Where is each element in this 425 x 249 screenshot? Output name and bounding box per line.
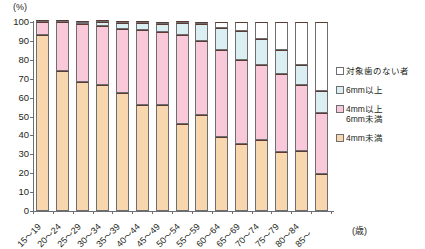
bar-segment <box>255 22 268 39</box>
bar-segment <box>255 39 268 65</box>
legend-swatch-icon <box>336 67 344 75</box>
legend-item: 対象歯のない者 <box>336 66 424 76</box>
bar-30～34 <box>96 22 109 211</box>
x-axis-tick-label: 20～24 <box>36 222 63 249</box>
x-axis-tick-label: 55～59 <box>175 222 202 249</box>
bar-segment <box>136 105 149 211</box>
bar-50～54 <box>176 22 189 211</box>
bar-segment <box>36 22 49 35</box>
bar-segment <box>96 22 109 26</box>
chart-legend: 対象歯のない者6mm以上4mm以上 6mm未満4mm未満 <box>336 66 424 152</box>
x-axis-tick-label: 65～69 <box>215 222 242 249</box>
bar-segment <box>156 22 169 24</box>
bar-segment <box>215 28 228 51</box>
bar-segment <box>195 115 208 211</box>
bar-segment <box>96 85 109 211</box>
legend-label: 4mm以上 6mm未満 <box>346 104 383 124</box>
bar-segment <box>156 105 169 211</box>
plot-area: 0102030405060708090100 <box>33 22 331 211</box>
x-axis-tick-label: 60～64 <box>195 222 222 249</box>
bar-segment <box>275 22 288 50</box>
bar-45～49 <box>156 22 169 211</box>
legend-swatch-icon <box>336 134 344 142</box>
bar-segment <box>116 29 129 93</box>
legend-swatch-icon <box>336 86 344 94</box>
bar-segment <box>315 113 328 174</box>
bar-segment <box>116 21 129 23</box>
bar-segment <box>76 24 89 83</box>
bar-segment <box>295 65 308 86</box>
x-axis-tick-label: 15～19 <box>16 222 43 249</box>
bar-segment <box>275 74 288 152</box>
bar-25～29 <box>76 22 89 211</box>
x-axis-tick-label: 25～29 <box>56 222 83 249</box>
bar-segment <box>136 30 149 106</box>
bar-60～64 <box>215 22 228 211</box>
legend-label: 対象歯のない者 <box>346 66 409 76</box>
legend-label: 4mm未満 <box>346 133 383 143</box>
bar-group <box>33 22 331 211</box>
x-axis-tick-label: 85～ <box>294 229 314 249</box>
bar-segment <box>56 71 69 211</box>
bar-segment <box>96 20 109 22</box>
bar-segment <box>215 50 228 137</box>
bar-segment <box>76 82 89 211</box>
bar-segment <box>235 31 248 59</box>
bar-segment <box>235 144 248 211</box>
bar-segment <box>36 20 49 22</box>
bar-segment <box>315 91 328 113</box>
bar-55～59 <box>195 22 208 211</box>
bar-40～44 <box>136 22 149 211</box>
bar-75～79 <box>275 22 288 211</box>
bar-segment <box>195 41 208 115</box>
bar-segment <box>295 151 308 211</box>
bar-segment <box>156 24 169 33</box>
y-axis-tick-mark <box>30 211 33 212</box>
bar-segment <box>136 23 149 30</box>
legend-swatch-icon <box>336 105 344 113</box>
bar-segment <box>176 21 189 23</box>
bar-65～69 <box>235 22 248 211</box>
y-axis-unit-label: (%) <box>13 2 27 12</box>
bar-segment <box>176 124 189 211</box>
bar-segment <box>176 23 189 35</box>
x-axis-unit-label: (歳) <box>352 224 367 237</box>
bar-segment <box>275 152 288 211</box>
bar-segment <box>255 65 268 141</box>
bar-segment <box>76 21 89 23</box>
x-axis-line <box>33 211 334 212</box>
bar-segment <box>96 26 109 86</box>
legend-item: 6mm以上 <box>336 85 424 95</box>
bar-70～74 <box>255 22 268 211</box>
x-axis-tick-label: 45～49 <box>135 222 162 249</box>
bar-segment <box>156 32 169 105</box>
bar-segment <box>116 93 129 211</box>
bar-segment <box>136 21 149 23</box>
bar-segment <box>56 22 69 71</box>
bar-80～84 <box>295 22 308 211</box>
bar-segment <box>295 85 308 151</box>
x-axis-tick-label: 70～74 <box>235 222 262 249</box>
bar-segment <box>255 140 268 211</box>
x-axis-tick-label: 40～44 <box>115 222 142 249</box>
bar-segment <box>36 35 49 211</box>
legend-item: 4mm以上 6mm未満 <box>336 104 424 124</box>
bar-segment <box>176 35 189 124</box>
bar-35～39 <box>116 22 129 211</box>
bar-segment <box>215 22 228 28</box>
x-axis-tick-label: 75～79 <box>254 222 281 249</box>
bar-segment <box>315 174 328 211</box>
bar-segment <box>195 24 208 41</box>
bar-15～19 <box>36 22 49 211</box>
x-axis-tick-label: 80～84 <box>274 222 301 249</box>
bar-segment <box>315 22 328 91</box>
bar-segment <box>295 22 308 65</box>
bar-segment <box>215 137 228 211</box>
bar-20～24 <box>56 22 69 211</box>
bar-segment <box>275 50 288 74</box>
x-axis-tick-label: 50～54 <box>155 222 182 249</box>
bar-segment <box>235 60 248 144</box>
bar-segment <box>195 22 208 24</box>
bar-85～ <box>315 22 328 211</box>
bar-segment <box>116 23 129 29</box>
